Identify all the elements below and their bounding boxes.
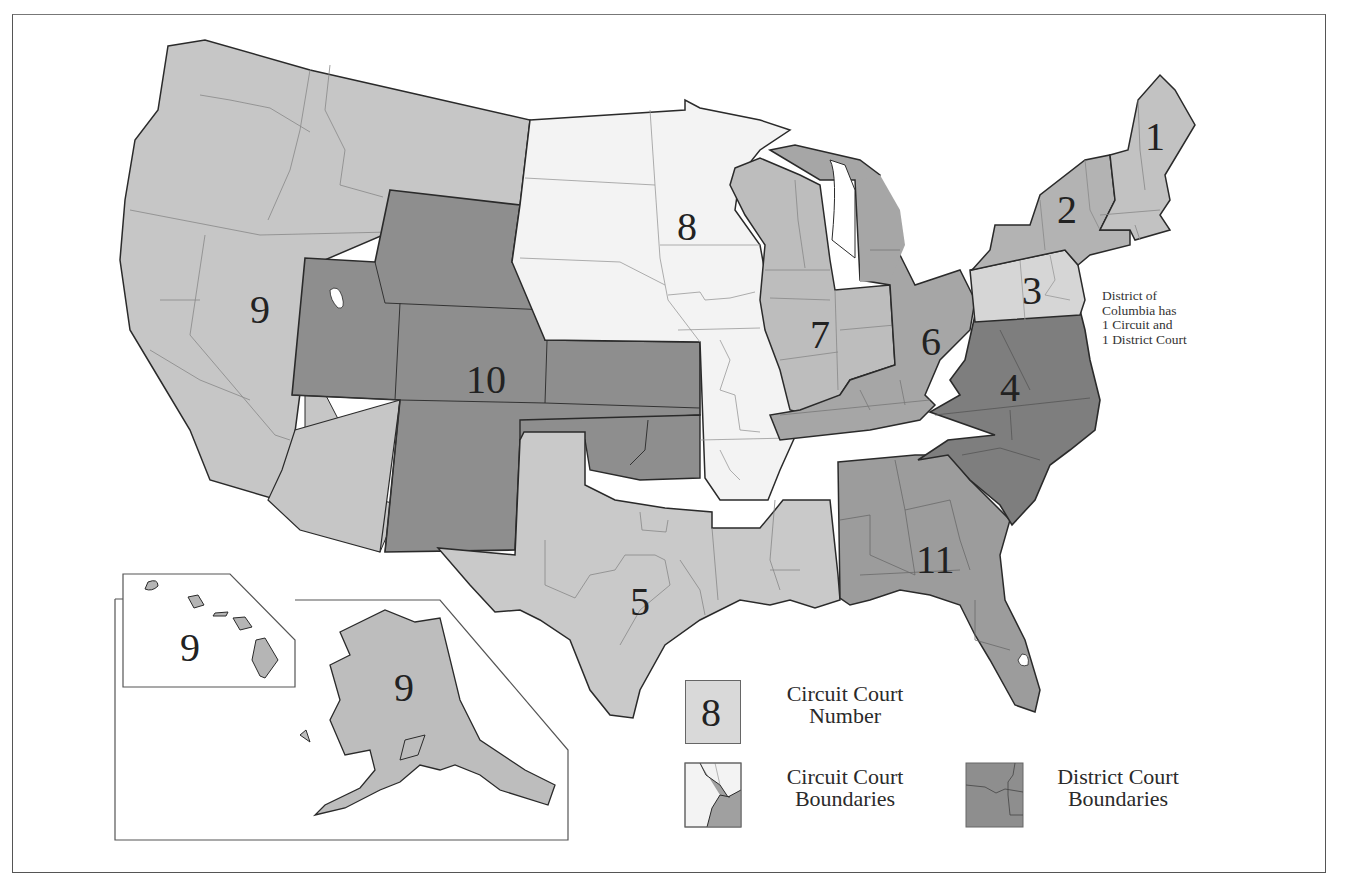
legend-line2: Boundaries	[770, 788, 920, 810]
circuit-label-6: 6	[921, 322, 941, 362]
legend-swatch-circuit-number: 8	[685, 680, 741, 744]
us-court-circuits-map	[0, 0, 1345, 885]
circuit-label-10: 10	[466, 360, 506, 400]
legend-line1: Circuit Court	[770, 683, 920, 705]
circuit-label-1: 1	[1145, 117, 1165, 157]
legend-line1: Circuit Court	[770, 766, 920, 788]
circuit-label-7: 7	[810, 315, 830, 355]
dc-note: District of Columbia has 1 Circuit and 1…	[1102, 289, 1187, 347]
circuit-label-9: 9	[250, 290, 270, 330]
legend-swatch-district-boundaries	[966, 763, 1023, 827]
circuit-label-4: 4	[1000, 368, 1020, 408]
legend-line2: Boundaries	[1038, 788, 1198, 810]
alaska[interactable]	[300, 610, 555, 815]
circuit-label-5: 5	[630, 582, 650, 622]
legend-item-district-boundaries: District Court Boundaries	[1038, 766, 1198, 810]
legend-swatch-number: 8	[701, 693, 721, 733]
circuit-label-8: 8	[677, 207, 697, 247]
circuit-label-3: 3	[1022, 271, 1042, 311]
hawaii[interactable]	[145, 581, 278, 678]
legend-line1: District Court	[1038, 766, 1198, 788]
circuit-label-9-alaska: 9	[394, 668, 414, 708]
circuit-label-11: 11	[916, 540, 955, 580]
circuit-label-2: 2	[1057, 190, 1077, 230]
circuit-2-region[interactable]	[972, 155, 1130, 270]
legend-line2: Number	[770, 705, 920, 727]
legend-item-circuit-boundaries: Circuit Court Boundaries	[770, 766, 920, 810]
legend-swatch-circuit-boundaries	[685, 763, 741, 827]
legend-item-circuit-number: Circuit Court Number	[770, 683, 920, 727]
circuit-label-9-hawaii: 9	[180, 628, 200, 668]
